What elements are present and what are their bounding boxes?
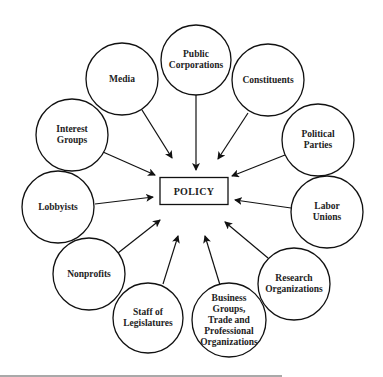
- policy-label: POLICY: [174, 186, 215, 197]
- arrow-business-groups: [205, 236, 220, 285]
- node-label-interest-groups: Interest Groups: [56, 124, 87, 146]
- node-label-research-organizations: Research Organizations: [265, 273, 323, 295]
- node-label-constituents: Constituents: [242, 75, 293, 86]
- arrow-interest-groups: [103, 152, 155, 175]
- node-label-labor-unions: Labor Unions: [313, 201, 342, 223]
- arrow-lobbyists: [95, 197, 153, 204]
- arrow-constituents: [218, 113, 248, 159]
- node-label-nonprofits: Nonprofits: [67, 269, 111, 280]
- arrow-media: [142, 110, 172, 158]
- arrow-staff-of-legislatures: [163, 236, 178, 284]
- node-label-business-groups: Business Groups, Trade and Professional …: [200, 293, 258, 348]
- node-label-lobbyists: Lobbyists: [38, 202, 78, 213]
- arrow-research-organizations: [225, 222, 268, 258]
- node-label-political-parties: Political Parties: [301, 129, 334, 151]
- node-label-staff-of-legislatures: Staff of Legislatures: [123, 307, 172, 329]
- node-label-public-corporations: Public Corporations: [169, 49, 223, 71]
- node-label-media: Media: [109, 74, 135, 85]
- arrow-nonprofits: [118, 220, 160, 253]
- arrow-labor-unions: [235, 200, 291, 208]
- arrow-political-parties: [232, 155, 285, 176]
